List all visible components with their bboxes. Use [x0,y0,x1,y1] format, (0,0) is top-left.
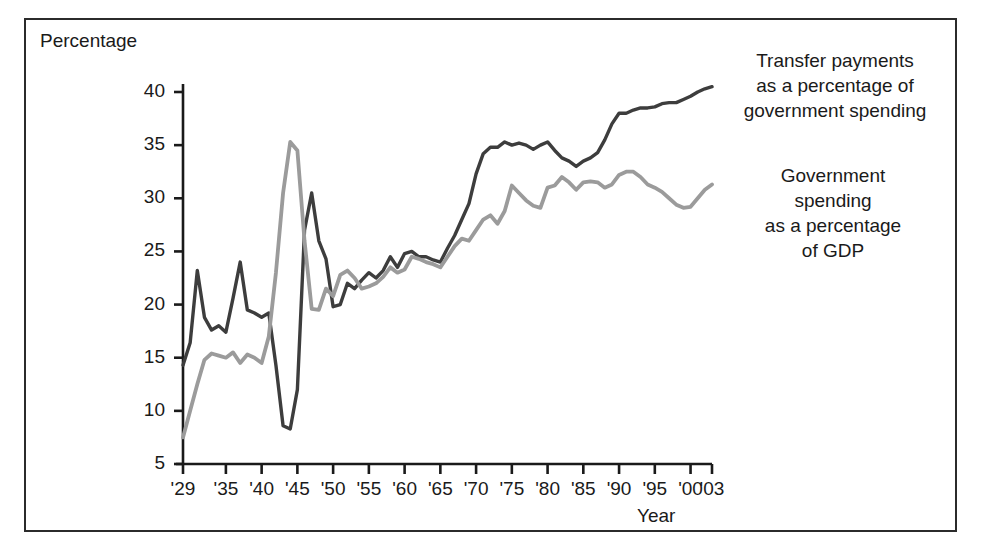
y-tick-label: 15 [125,346,165,368]
y-tick-label: 5 [125,452,165,474]
y-tick-label: 25 [125,239,165,261]
axis-lines [176,84,712,464]
y-tick-label: 10 [125,399,165,421]
series-line-government-spending [183,142,712,437]
x-axis-ticks [183,464,712,474]
y-axis-ticks [174,92,183,464]
data-series-lines [183,87,712,438]
y-tick-label: 35 [125,133,165,155]
chart-page: Percentage Year Transfer payments as a p… [0,0,981,552]
y-tick-label: 30 [125,186,165,208]
x-tick-label: '29 [161,478,205,500]
x-tick-label: '03 [690,478,734,500]
y-tick-label: 20 [125,293,165,315]
y-tick-label: 40 [125,80,165,102]
